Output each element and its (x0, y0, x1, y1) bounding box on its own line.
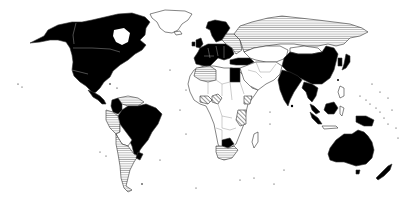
region-philippines (338, 86, 344, 98)
region-australia (328, 130, 374, 166)
region-horn-hatched (244, 96, 252, 104)
island-cuba (109, 83, 111, 85)
region-tasmania (356, 170, 360, 174)
region-malaysia (310, 104, 320, 114)
region-borneo (324, 102, 338, 114)
region-madagascar (252, 132, 258, 148)
region-iceland (174, 31, 182, 35)
region-egypt (230, 68, 240, 82)
island-taiwan (337, 79, 339, 81)
region-southeast-asia (302, 82, 318, 102)
pacific-islands (360, 84, 399, 139)
region-uk (196, 38, 203, 48)
island-hawaii (17, 83, 18, 84)
region-south-africa (216, 146, 238, 160)
region-japan (342, 54, 350, 70)
region-greenland (150, 10, 192, 33)
island-falklands (141, 183, 143, 185)
region-ireland (192, 42, 195, 46)
island-caribbean (116, 87, 117, 88)
island-sri-lanka (291, 105, 293, 107)
region-korea (338, 58, 342, 66)
region-new-guinea (356, 116, 374, 126)
region-central-america (88, 90, 106, 104)
region-java (322, 126, 338, 129)
region-north-america (30, 13, 150, 94)
map-svg (0, 0, 412, 200)
region-new-zealand (376, 164, 392, 180)
world-map (0, 0, 412, 200)
region-sulawesi (340, 106, 344, 116)
island-hawaii-2 (22, 87, 23, 88)
